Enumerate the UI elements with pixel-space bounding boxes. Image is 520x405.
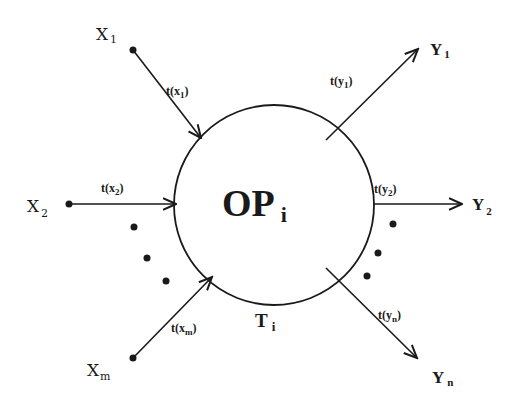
- output-edge-y1: Y1 t(y1): [326, 40, 450, 140]
- operation-diagram: OPi Ti X1 t(x1) X2 t(x2) Xm t(xm) Y1 t(y…: [0, 0, 520, 405]
- input-edge-x2: X2 t(x2): [27, 181, 176, 220]
- edge-time-label: t(y1): [330, 74, 353, 90]
- input-edge-xm: Xm t(xm): [87, 277, 212, 383]
- output-edge-y2: Y2 t(y2): [373, 182, 492, 217]
- time-label: Ti: [255, 310, 276, 334]
- input-ellipsis: [131, 224, 170, 285]
- output-arrow: [326, 268, 417, 358]
- input-label: Xm: [87, 360, 111, 383]
- output-label: Y2: [472, 195, 492, 217]
- input-edge-x1: X1 t(x1): [96, 24, 201, 138]
- input-label: X2: [27, 196, 48, 220]
- output-label: Y1: [430, 40, 450, 60]
- operation-label: OPi: [222, 182, 287, 227]
- edge-time-label: t(x2): [101, 181, 124, 197]
- edge-time-label: t(x1): [166, 84, 189, 100]
- input-label: X1: [96, 24, 117, 46]
- output-arrow: [326, 49, 418, 140]
- output-edge-yn: Yn t(yn): [326, 268, 453, 388]
- input-arrow: [133, 277, 212, 358]
- edge-time-label: t(y2): [374, 182, 397, 198]
- output-ellipsis: [364, 221, 397, 280]
- output-label: Yn: [432, 368, 453, 388]
- edge-time-label: t(yn): [378, 308, 401, 324]
- edge-time-label: t(xm): [171, 321, 197, 337]
